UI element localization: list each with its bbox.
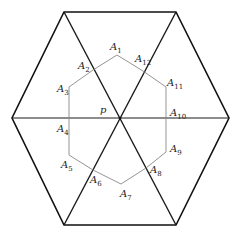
vertex-label: A5 xyxy=(60,159,73,173)
vertex-label: A12 xyxy=(134,53,151,67)
vertex-label: A2 xyxy=(77,60,90,74)
center-point xyxy=(119,117,122,120)
vertex-label: A3 xyxy=(56,83,69,97)
vertex-label: A4 xyxy=(56,123,69,137)
vertex-label: A6 xyxy=(89,174,102,188)
hexagon-diagram: p A1A2A3A4A5A6A7A8A9A10A11A12 xyxy=(0,0,236,235)
vertex-label: A11 xyxy=(166,77,183,91)
vertex-label: A9 xyxy=(169,143,182,157)
vertex-label: A7 xyxy=(119,188,132,202)
vertex-label: A1 xyxy=(109,41,122,55)
center-label-p: p xyxy=(100,104,107,115)
vertex-label: A8 xyxy=(149,164,162,178)
